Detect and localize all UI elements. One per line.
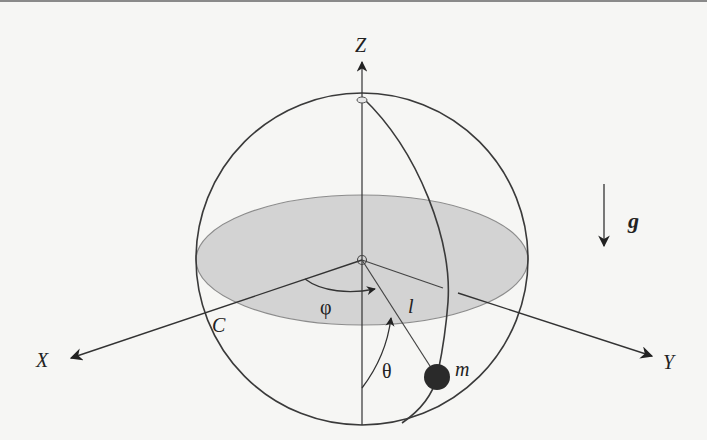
mass-bob (424, 364, 450, 390)
phi-label: φ (320, 296, 332, 319)
y-axis-label: Y (663, 351, 676, 373)
spherical-pendulum-diagram: Z X Y g m l φ θ C (0, 2, 707, 440)
circle-c-label: C (212, 314, 226, 336)
north-pole-marker (357, 97, 367, 103)
theta-label: θ (382, 360, 392, 382)
diagram-frame: Z X Y g m l φ θ C (0, 0, 707, 440)
length-label: l (408, 295, 414, 317)
x-axis-label: X (35, 349, 49, 371)
y-axis (458, 293, 652, 356)
z-axis-label: Z (355, 34, 367, 56)
gravity-label: g (627, 208, 639, 233)
mass-label: m (455, 358, 469, 380)
